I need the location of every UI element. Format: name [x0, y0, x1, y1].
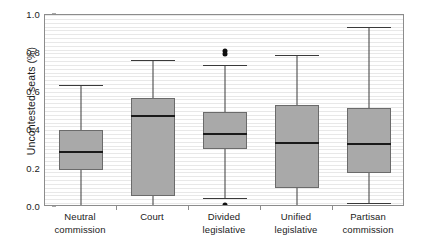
y-axis-ticks: 0.00.20.40.60.81.0	[12, 0, 40, 247]
x-tick-mark	[260, 206, 261, 210]
median-line	[275, 142, 319, 144]
x-tick-mark	[188, 206, 189, 210]
upper-whisker-line	[369, 27, 370, 108]
upper-whisker-cap	[203, 65, 247, 66]
x-label-line-2: legislative	[188, 224, 260, 237]
iqr-box	[275, 105, 319, 188]
box-plot-group	[45, 15, 117, 205]
upper-whisker-line	[81, 85, 82, 130]
x-tick-mark	[332, 206, 333, 210]
x-axis-category-label: Dividedlegislative	[188, 211, 260, 236]
y-tick-label: 1.0	[14, 9, 40, 20]
y-tick-label: 0.4	[14, 124, 40, 135]
x-axis-category-label: Neutralcommission	[44, 211, 116, 236]
upper-whisker-cap	[275, 55, 319, 56]
y-tick-label: 0.8	[14, 47, 40, 58]
upper-whisker-line	[297, 55, 298, 105]
x-label-line-1: Partisan	[332, 211, 404, 224]
box-plot-group	[189, 15, 261, 205]
x-axis-category-label: Partisancommission	[332, 211, 404, 236]
upper-whisker-cap	[59, 85, 103, 86]
x-label-line-1: Unified	[260, 211, 332, 224]
x-label-line-1: Divided	[188, 211, 260, 224]
outlier-point	[223, 48, 228, 53]
median-line	[131, 115, 175, 117]
iqr-box	[347, 108, 391, 173]
box-plot-group	[333, 15, 404, 205]
x-label-line-1: Court	[116, 211, 188, 224]
x-label-line-2: commission	[44, 224, 116, 237]
iqr-box	[131, 98, 175, 197]
x-axis-labels: NeutralcommissionCourtDividedlegislative…	[44, 211, 404, 247]
iqr-box	[59, 130, 103, 169]
median-line	[347, 143, 391, 145]
median-line	[59, 151, 103, 153]
upper-whisker-line	[225, 65, 226, 112]
y-tick-label: 0.2	[14, 162, 40, 173]
plot-area	[44, 14, 404, 206]
box-plot-group	[117, 15, 189, 205]
lower-whisker-line	[369, 173, 370, 203]
lower-whisker-line	[81, 170, 82, 206]
x-label-line-2: commission	[332, 224, 404, 237]
x-tick-mark	[116, 206, 117, 210]
x-axis-category-label: Unifiedlegislative	[260, 211, 332, 236]
x-axis-category-label: Court	[116, 211, 188, 224]
y-tick-label: 0.6	[14, 85, 40, 96]
lower-whisker-cap	[203, 198, 247, 199]
upper-whisker-line	[153, 60, 154, 97]
median-line	[203, 133, 247, 135]
lower-whisker-line	[225, 149, 226, 198]
upper-whisker-cap	[347, 27, 391, 28]
x-label-line-1: Neutral	[44, 211, 116, 224]
box-plot-group	[261, 15, 333, 205]
lower-whisker-line	[153, 196, 154, 206]
upper-whisker-cap	[131, 60, 175, 61]
x-label-line-2: legislative	[260, 224, 332, 237]
lower-whisker-cap	[347, 203, 391, 204]
iqr-box	[203, 112, 247, 149]
y-tick-label: 0.0	[14, 201, 40, 212]
box-plot-chart: Uncontested seats (%) 0.00.20.40.60.81.0…	[0, 0, 421, 247]
lower-whisker-line	[297, 188, 298, 206]
